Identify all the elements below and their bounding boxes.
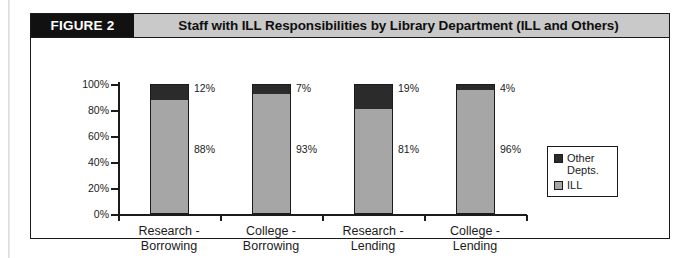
bar-value-label-ill: 93%: [296, 143, 317, 155]
y-axis-tick-label: 60%: [39, 130, 109, 142]
bar-segment-other-depts: [151, 85, 188, 100]
figure-header-band: FIGURE 2 Staff with ILL Responsibilities…: [31, 14, 669, 38]
stacked-bar[interactable]: [456, 84, 495, 214]
y-axis-tick: [111, 136, 118, 138]
legend-label-other-depts: OtherDepts.: [567, 152, 599, 176]
bar-segment-ill: [457, 90, 494, 213]
legend-swatch-ill-icon: [554, 181, 563, 190]
bar-value-label-ill: 88%: [194, 143, 215, 155]
bar-segment-ill: [355, 109, 392, 213]
bar-group: 12%88%: [118, 82, 220, 214]
y-axis-tick-label: 100%: [39, 78, 109, 90]
x-axis-tick: [424, 215, 426, 221]
bar-value-label-ill: 96%: [500, 143, 521, 155]
legend-item-ill: ILL: [554, 179, 617, 191]
x-axis-category-label: College -Lending: [412, 224, 538, 254]
bar-value-label-other-depts: 4%: [500, 82, 515, 94]
legend-swatch-other-depts-icon: [554, 154, 563, 163]
y-axis-tick-label: 0%: [39, 208, 109, 220]
legend-label-ill: ILL: [567, 179, 582, 191]
category-label-line: Lending: [412, 239, 538, 254]
bar-segment-other-depts: [355, 85, 392, 109]
y-axis-tick: [111, 214, 118, 216]
x-axis-tick: [118, 215, 120, 221]
bar-group: 4%96%: [424, 82, 526, 214]
figure-title: Staff with ILL Responsibilities by Libra…: [134, 14, 669, 37]
chart-plot-area: 0%20%40%60%80%100% 12%88%7%93%19%81%4%96…: [31, 38, 669, 238]
y-axis-tick-label: 20%: [39, 182, 109, 194]
y-axis-tick: [111, 84, 118, 86]
chart-legend: OtherDepts. ILL: [547, 146, 618, 197]
x-axis-tick: [220, 215, 222, 221]
figure-number-tag: FIGURE 2: [31, 14, 134, 37]
stacked-bar[interactable]: [252, 84, 291, 214]
category-label-line: College -: [412, 224, 538, 239]
bar-group: 7%93%: [220, 82, 322, 214]
stacked-bar[interactable]: [150, 84, 189, 214]
bar-value-label-ill: 81%: [398, 143, 419, 155]
y-axis-labels: 0%20%40%60%80%100%: [31, 38, 109, 238]
bar-value-label-other-depts: 7%: [296, 82, 311, 94]
bar-group: 19%81%: [322, 82, 424, 214]
y-axis-tick: [111, 188, 118, 190]
legend-item-other-depts: OtherDepts.: [554, 152, 617, 176]
x-axis-tick: [322, 215, 324, 221]
page-gutter-line: [8, 0, 10, 258]
y-axis-tick: [111, 110, 118, 112]
bar-segment-ill: [253, 94, 290, 213]
y-axis-tick: [111, 162, 118, 164]
bar-segment-ill: [151, 100, 188, 213]
figure-container: FIGURE 2 Staff with ILL Responsibilities…: [30, 13, 670, 239]
y-axis-tick-label: 40%: [39, 156, 109, 168]
bar-segment-other-depts: [253, 85, 290, 94]
y-axis-tick-label: 80%: [39, 104, 109, 116]
bar-value-label-other-depts: 19%: [398, 82, 419, 94]
bar-value-label-other-depts: 12%: [194, 82, 215, 94]
stacked-bar[interactable]: [354, 84, 393, 214]
x-axis-tick: [526, 215, 528, 221]
